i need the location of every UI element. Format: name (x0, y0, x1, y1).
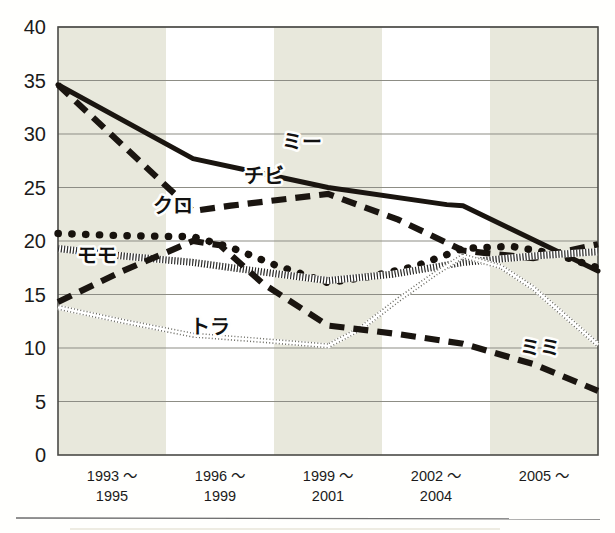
y-tick-40: 40 (24, 16, 46, 38)
x-tick-1-line1: 1999 (204, 488, 236, 504)
series-label-ミミ: ミミ (520, 336, 560, 360)
footer-rules (16, 518, 600, 529)
line-chart: 4035302520151050 1993 〜19951996 〜1999199… (0, 0, 615, 533)
series-label-トラ: トラ (190, 315, 230, 339)
series-label-モモ: モモ (77, 244, 117, 268)
x-tick-3-line1: 2004 (420, 488, 452, 504)
footer-divider (16, 518, 600, 519)
y-tick-15: 15 (24, 284, 46, 306)
x-tick-1-line0: 1996 〜 (195, 468, 245, 484)
y-tick-5: 5 (35, 391, 46, 413)
x-tick-4-line0: 2005 〜 (519, 468, 569, 484)
y-tick-30: 30 (24, 123, 46, 145)
x-tick-2-line1: 2001 (312, 488, 344, 504)
series-label-チビ: チビ (244, 164, 284, 188)
y-tick-0: 0 (35, 444, 46, 466)
y-tick-10: 10 (24, 337, 46, 359)
series-label-ミー: ミー (282, 130, 322, 154)
y-tick-35: 35 (24, 70, 46, 92)
chart-container: 4035302520151050 1993 〜19951996 〜1999199… (0, 0, 615, 533)
series-label-クロ: クロ (153, 194, 193, 218)
y-tick-20: 20 (24, 230, 46, 252)
y-axis-tick-labels: 4035302520151050 (24, 16, 46, 466)
x-tick-2-line0: 1999 〜 (303, 468, 353, 484)
y-tick-25: 25 (24, 177, 46, 199)
x-tick-3-line0: 2002 〜 (411, 468, 461, 484)
x-tick-0-line1: 1995 (96, 488, 128, 504)
x-tick-0-line0: 1993 〜 (87, 468, 137, 484)
x-axis-tick-labels: 1993 〜19951996 〜19991999 〜20012002 〜2004… (87, 468, 569, 504)
